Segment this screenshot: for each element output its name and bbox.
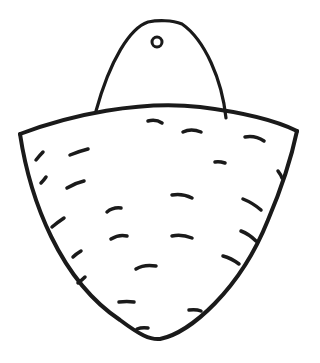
texture-dash bbox=[73, 251, 81, 257]
texture-dash bbox=[241, 231, 256, 241]
texture-dash bbox=[189, 310, 201, 311]
texture-dash bbox=[41, 177, 46, 183]
basket-texture-dashes bbox=[36, 120, 282, 329]
texture-dash bbox=[136, 265, 156, 269]
texture-dash bbox=[278, 171, 282, 178]
texture-dash bbox=[183, 130, 201, 132]
texture-dash bbox=[107, 208, 121, 212]
basket-drawing bbox=[0, 0, 320, 363]
texture-dash bbox=[36, 152, 43, 160]
texture-dash bbox=[172, 235, 192, 238]
texture-dash bbox=[78, 277, 85, 283]
texture-dash bbox=[70, 149, 88, 155]
texture-dash bbox=[245, 137, 264, 142]
tag-hole bbox=[152, 37, 162, 47]
texture-dash bbox=[215, 162, 225, 163]
basket-body bbox=[20, 131, 297, 339]
texture-dash bbox=[148, 120, 162, 123]
texture-dash bbox=[223, 256, 239, 264]
texture-dash bbox=[119, 302, 134, 303]
texture-dash bbox=[52, 218, 64, 227]
texture-dash bbox=[172, 194, 192, 198]
texture-dash bbox=[137, 328, 148, 329]
texture-dash bbox=[111, 235, 127, 239]
texture-dash bbox=[243, 199, 261, 210]
texture-dash bbox=[67, 181, 84, 188]
sketch-canvas: Hand-drawn sketch of a hanging basket-sh… bbox=[0, 0, 320, 363]
